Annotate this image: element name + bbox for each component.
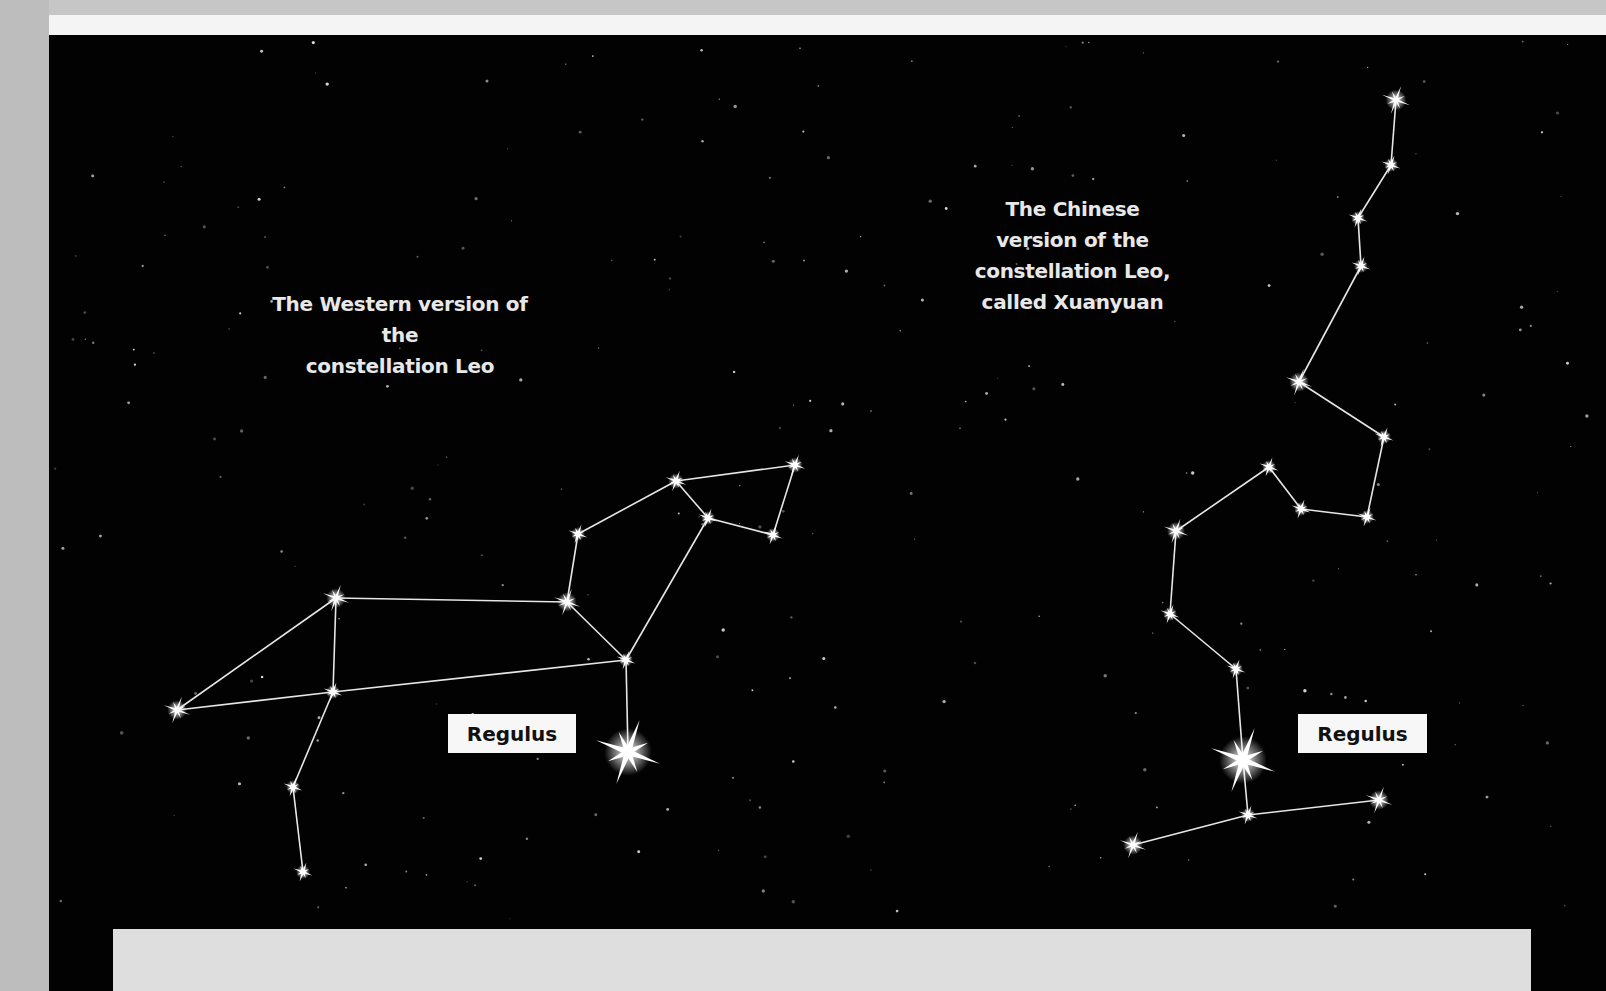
star-icon (1161, 605, 1180, 624)
constellation-line (567, 602, 626, 660)
star-icon (1120, 832, 1146, 858)
constellation-line (1176, 467, 1269, 531)
star-icon (294, 863, 313, 882)
star-icon (1260, 458, 1279, 477)
constellation-line (293, 692, 333, 787)
star-icon (764, 526, 783, 545)
bottom-text-panel (113, 929, 1531, 991)
constellation-line (567, 534, 578, 602)
star-icon (1375, 428, 1394, 447)
star-icon (1292, 500, 1311, 519)
regulus-star-icon (1211, 728, 1275, 792)
star-icon (1164, 519, 1188, 543)
constellation-line (676, 465, 795, 481)
caption-chinese-xuanyuan: The Chinese version of the constellation… (965, 194, 1180, 318)
star-icon (1382, 156, 1401, 175)
star-icon (1366, 787, 1392, 813)
star-icon (1227, 660, 1246, 679)
star-icon (164, 697, 190, 723)
background-stars (54, 41, 1589, 920)
constellation-line (1299, 382, 1384, 437)
constellation-stars (164, 86, 1410, 881)
star-icon (324, 683, 343, 702)
caption-western-leo: The Western version of the constellation… (255, 289, 545, 382)
star-icon (1239, 806, 1258, 825)
star-icon (323, 585, 349, 611)
constellation-line (578, 481, 676, 534)
constellation-line (626, 518, 708, 660)
regulus-label-western: Regulus (448, 714, 576, 753)
constellation-line (1367, 437, 1384, 517)
constellation-line (1301, 509, 1367, 517)
constellation-line (336, 598, 567, 602)
constellation-line (333, 660, 626, 692)
regulus-star-icon (596, 720, 660, 784)
constellation-lines (177, 100, 1396, 872)
constellation-line (1358, 218, 1361, 266)
star-icon (1349, 209, 1368, 228)
constellation-illustration (0, 0, 1606, 991)
regulus-label-chinese: Regulus (1298, 714, 1427, 753)
star-icon (569, 525, 588, 544)
star-icon (284, 778, 303, 797)
star-icon (1358, 508, 1377, 527)
constellation-line (708, 518, 773, 535)
star-icon (1286, 369, 1312, 395)
constellation-line (177, 692, 333, 710)
star-icon (785, 455, 806, 476)
constellation-line (1170, 531, 1176, 614)
star-icon (1382, 86, 1410, 114)
constellation-line (1358, 165, 1391, 218)
star-icon (1352, 257, 1371, 276)
constellation-line (1299, 266, 1361, 382)
constellation-line (333, 598, 336, 692)
constellation-line (293, 787, 303, 872)
constellation-line (1248, 800, 1379, 815)
constellation-line (1269, 467, 1301, 509)
constellation-line (773, 465, 795, 535)
constellation-line (1170, 614, 1236, 669)
constellation-line (1133, 815, 1248, 845)
constellation-line (177, 598, 336, 710)
